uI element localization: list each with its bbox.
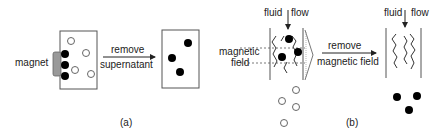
magnetic-particle — [176, 68, 184, 76]
container-after — [162, 30, 199, 88]
magnetic-particle — [184, 39, 192, 47]
flow-label-flow-left: flow — [291, 7, 310, 18]
field-label-line2: field — [231, 57, 249, 68]
magnetic-particle — [61, 72, 69, 80]
fiber — [392, 34, 397, 68]
magnetic-particle — [413, 92, 421, 100]
arrow-b-label-line2: magnetic field — [317, 56, 379, 67]
magnetic-particle — [61, 61, 69, 69]
arrow-label-line2: supernatant — [100, 59, 153, 70]
nonmagnetic-particle — [83, 50, 90, 57]
field-label-line1: magnetic — [219, 46, 260, 57]
flow-label-fluid-left: fluid — [264, 7, 282, 18]
nonmagnetic-particle — [279, 98, 286, 105]
flow-label-fluid-right: fluid — [384, 7, 402, 18]
magnetic-particle — [393, 93, 401, 101]
magnet-label: magnet — [15, 57, 49, 68]
caption-b: (b) — [346, 117, 358, 128]
nonmagnetic-particle — [68, 38, 75, 45]
magnetic-separation-diagram: magnet remove supernatant (a) fluid flow — [0, 0, 437, 138]
nonmagnetic-particle — [72, 67, 79, 74]
arrow-b-label-line1: remove — [328, 40, 362, 51]
fiber — [404, 36, 407, 64]
caption-a: (a) — [120, 117, 132, 128]
panel-a: magnet remove supernatant (a) — [15, 30, 199, 128]
magnet-icon — [53, 52, 61, 76]
nonmagnetic-particle — [293, 87, 300, 94]
fiber — [272, 36, 277, 67]
panel-b: fluid flow magnetic field remove magneti… — [219, 7, 430, 128]
arrow-label-line1: remove — [111, 44, 145, 55]
container-before — [60, 31, 97, 89]
flow-label-flow-right: flow — [411, 7, 430, 18]
magnetic-particle — [168, 54, 176, 62]
nonmagnetic-particle — [281, 120, 288, 127]
magnetic-particle — [278, 53, 286, 61]
magnetic-particle — [405, 106, 413, 114]
fiber — [410, 34, 415, 69]
nonmagnetic-particle — [293, 104, 300, 111]
magnetic-particle — [61, 50, 69, 58]
nonmagnetic-particle — [88, 71, 95, 78]
magnetic-particle — [285, 35, 293, 43]
magnetic-particle — [294, 48, 302, 56]
